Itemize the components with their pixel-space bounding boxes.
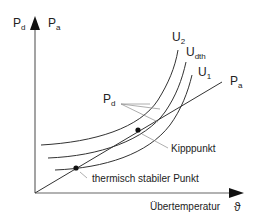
- y-axis-label-pa: Pa: [48, 17, 60, 29]
- pa-line-label: Pa: [230, 75, 242, 87]
- pd-label: Pd: [103, 93, 115, 105]
- stable-point-leader: [80, 172, 87, 178]
- x-axis-symbol: ϑ: [234, 201, 241, 213]
- x-axis-arrow-icon: [229, 188, 244, 198]
- kipppunkt-leader: [142, 134, 168, 148]
- curve-udth: [48, 62, 186, 158]
- curve-label-udth: Udth: [186, 46, 206, 58]
- kipppunkt-marker: [135, 127, 140, 132]
- stable-point-marker: [73, 165, 78, 170]
- curve-label-u2: U2: [172, 31, 185, 43]
- diagram-canvas: [0, 0, 273, 223]
- x-axis-label: Übertemperatur: [150, 202, 220, 212]
- y-axis-label-pd: Pd: [13, 17, 25, 29]
- y-axis-arrow-icon: [30, 16, 40, 30]
- kipppunkt-label: Kipppunkt: [171, 144, 215, 154]
- stable-point-label: thermisch stabiler Punkt: [92, 174, 199, 184]
- curve-label-u1: U1: [198, 66, 211, 78]
